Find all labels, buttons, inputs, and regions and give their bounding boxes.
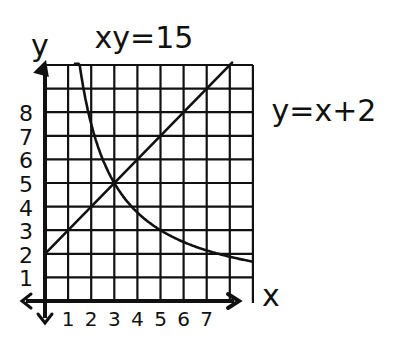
y-axis-up-arrow-icon (36, 63, 47, 75)
x-tick-label: 2 (85, 307, 98, 331)
x-tick-label: 4 (131, 307, 144, 331)
y-tick-label: 1 (19, 266, 33, 291)
y-tick-label: 8 (19, 101, 33, 126)
x-tick-label: 5 (154, 307, 167, 331)
grid (45, 65, 253, 303)
y-tick-label: 2 (19, 243, 33, 268)
y-tick-label: 6 (19, 148, 33, 173)
line-equation-label: y=x+2 (272, 93, 377, 128)
x-tick-label: 7 (200, 307, 213, 331)
line-y-equals-x-plus-2 (45, 63, 232, 254)
chart-title: xy=15 (95, 20, 194, 55)
y-tick-label: 3 (19, 219, 33, 244)
series (45, 63, 253, 262)
x-tick-label: 1 (62, 307, 75, 331)
x-axis-label: x (262, 278, 280, 313)
chart: 123456712345678 y xy=15 y=x+2 x (0, 0, 395, 338)
x-tick-label: 6 (177, 307, 190, 331)
y-tick-label: 4 (19, 196, 33, 221)
x-tick-label: 3 (108, 307, 121, 331)
y-tick-label: 7 (19, 125, 33, 150)
y-tick-label: 5 (19, 172, 33, 197)
y-axis-label: y (31, 28, 49, 63)
curve-xy-15 (75, 64, 253, 262)
